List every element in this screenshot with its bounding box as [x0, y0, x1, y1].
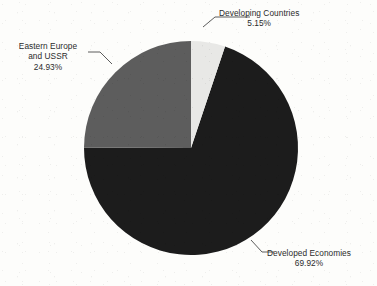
leader-line-eastern-europe-ussr: [88, 52, 112, 64]
slice-label-developing-countries-value: 5.15%: [219, 18, 299, 28]
slice-label-developed-economies: Developed Economies 69.92%: [267, 248, 351, 269]
slice-label-developing-countries-name: Developing Countries: [219, 8, 299, 18]
slice-label-developed-economies-value: 69.92%: [267, 258, 351, 268]
slice-label-eastern-europe-ussr-value: 24.93%: [8, 62, 88, 72]
slice-label-eastern-europe-ussr-name2: and USSR: [8, 51, 88, 61]
pie-chart: Developing Countries 5.15% Eastern Europ…: [0, 0, 377, 286]
slice-label-developed-economies-name: Developed Economies: [267, 248, 351, 258]
slice-label-developing-countries: Developing Countries 5.15%: [219, 8, 299, 29]
slice-label-eastern-europe-ussr-name: Eastern Europe: [19, 41, 77, 51]
slice-label-eastern-europe-ussr: Eastern Europe and USSR 24.93%: [8, 41, 88, 72]
pie-slice-eastern-europe-ussr[interactable]: [84, 41, 191, 148]
